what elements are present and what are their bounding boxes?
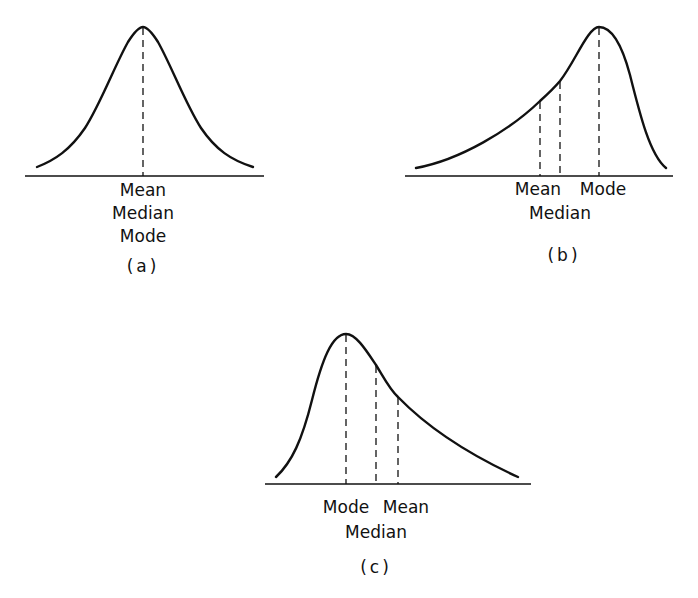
panel-b: Mean Mode Median (b) <box>405 27 673 265</box>
panel-c-label-median: Median <box>345 522 407 542</box>
panel-a: Mean Median Mode (a) <box>25 27 264 276</box>
panel-c: Mode Mean Median (c) <box>265 334 531 577</box>
panel-a-caption: (a) <box>127 256 160 276</box>
panel-a-label-median: Median <box>112 203 174 223</box>
panel-a-curve <box>37 27 253 167</box>
panel-c-curve <box>276 334 518 477</box>
panel-c-label-mean: Mean <box>383 497 429 517</box>
panel-a-label-mean: Mean <box>120 180 166 200</box>
distribution-figure: Mean Median Mode (a) Mean Mode Median (b… <box>0 0 698 598</box>
panel-c-caption: (c) <box>360 557 392 577</box>
panel-b-caption: (b) <box>547 245 580 265</box>
panel-c-label-mode: Mode <box>323 497 369 517</box>
panel-b-label-median: Median <box>529 203 591 223</box>
panel-b-curve <box>416 27 666 168</box>
panel-a-label-mode: Mode <box>120 226 166 246</box>
panel-b-label-mode: Mode <box>580 179 626 199</box>
panel-b-label-mean: Mean <box>515 179 561 199</box>
